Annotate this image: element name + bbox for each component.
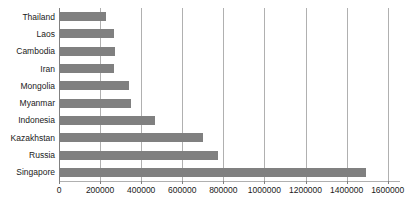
bar-row (59, 95, 400, 112)
bar (59, 116, 155, 125)
category-axis-labels: ThailandLaosCambodiaIranMongoliaMyanmarI… (0, 8, 55, 181)
tick-mark (59, 181, 60, 184)
category-label: Thailand (0, 12, 55, 22)
value-axis-labels: 0200000400000600000800000100000012000001… (0, 184, 420, 198)
bar (59, 99, 131, 108)
tick-mark (388, 181, 389, 184)
bars (59, 8, 400, 181)
tick-label: 200000 (86, 184, 114, 196)
category-label: Indonesia (0, 115, 55, 125)
value-axis-line (59, 8, 60, 181)
tick-mark (182, 181, 183, 184)
bar-row (59, 43, 400, 60)
tick-label: 0 (57, 184, 62, 196)
category-label: Myanmar (0, 98, 55, 108)
bar-row (59, 112, 400, 129)
tick-label: 600000 (168, 184, 196, 196)
tick-mark (141, 181, 142, 184)
bar-row (59, 60, 400, 77)
category-label: Russia (0, 150, 55, 160)
tick-mark (223, 181, 224, 184)
bar-row (59, 25, 400, 42)
bar-row (59, 8, 400, 25)
bar-chart: ThailandLaosCambodiaIranMongoliaMyanmarI… (0, 0, 420, 211)
tick-label: 800000 (209, 184, 237, 196)
tick-mark (347, 181, 348, 184)
bar-row (59, 146, 400, 163)
tick-label: 1200000 (289, 184, 322, 196)
tick-label: 400000 (127, 184, 155, 196)
bar (59, 168, 366, 177)
tick-mark (306, 181, 307, 184)
bar-row (59, 129, 400, 146)
category-label: Kazakhstan (0, 133, 55, 143)
bar (59, 47, 115, 56)
bar-row (59, 164, 400, 181)
bar (59, 81, 129, 90)
tick-label: 1400000 (330, 184, 363, 196)
tick-mark (264, 181, 265, 184)
bar (59, 64, 114, 73)
category-label: Cambodia (0, 46, 55, 56)
bar (59, 133, 203, 142)
category-axis-line (59, 181, 400, 182)
tick-mark (100, 181, 101, 184)
tick-label: 1000000 (248, 184, 281, 196)
bar (59, 29, 114, 38)
category-label: Iran (0, 64, 55, 74)
bar (59, 12, 106, 21)
category-label: Singapore (0, 167, 55, 177)
bar-row (59, 77, 400, 94)
tick-label: 1600000 (371, 184, 404, 196)
category-label: Mongolia (0, 81, 55, 91)
category-label: Laos (0, 29, 55, 39)
plot-area (59, 8, 400, 181)
bar (59, 151, 218, 160)
